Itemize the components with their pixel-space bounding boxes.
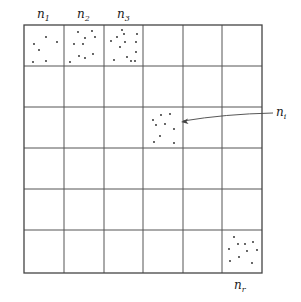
point-dot xyxy=(94,36,96,38)
point-dot xyxy=(78,55,80,57)
point-dot xyxy=(124,41,126,43)
dot-clusters xyxy=(32,29,258,264)
point-dot xyxy=(91,30,93,32)
point-dot xyxy=(45,60,47,62)
point-dot xyxy=(136,33,138,35)
point-dot xyxy=(233,236,235,238)
cell-ni xyxy=(152,113,175,144)
point-dot xyxy=(244,243,246,245)
point-dot xyxy=(152,119,154,121)
point-dot xyxy=(84,57,86,59)
point-dot xyxy=(84,37,86,39)
point-dot xyxy=(110,40,112,42)
label-nr: nr xyxy=(234,278,247,294)
label-n1: n1 xyxy=(37,7,50,23)
point-dot xyxy=(32,61,34,63)
label-n2: n2 xyxy=(77,7,90,23)
cell-n1 xyxy=(32,36,58,63)
grid-lines xyxy=(24,25,262,273)
cell-n3 xyxy=(110,29,138,62)
point-dot xyxy=(229,260,231,262)
point-dot xyxy=(256,249,258,251)
arrowhead-icon xyxy=(181,119,189,125)
point-dot xyxy=(155,124,157,126)
point-dot xyxy=(121,29,123,31)
arrow-to-cell-ni xyxy=(183,113,273,121)
point-dot xyxy=(69,61,71,63)
point-dot xyxy=(173,142,175,144)
point-dot xyxy=(130,60,132,62)
point-dot xyxy=(238,256,240,258)
point-dot xyxy=(135,41,137,43)
point-dot xyxy=(228,248,230,250)
point-dot xyxy=(160,114,162,116)
label-n3: n3 xyxy=(117,7,130,23)
point-dot xyxy=(33,43,35,45)
point-dot xyxy=(159,135,161,137)
point-dot xyxy=(119,46,121,48)
point-dot xyxy=(169,113,171,115)
point-dot xyxy=(173,128,175,130)
point-dot xyxy=(237,243,239,245)
point-dot xyxy=(126,56,128,58)
point-dot xyxy=(82,43,84,45)
point-dot xyxy=(246,250,248,252)
point-dot xyxy=(113,59,115,61)
point-dot xyxy=(153,141,155,143)
point-dot xyxy=(45,36,47,38)
point-dot xyxy=(134,60,136,62)
point-dot xyxy=(92,53,94,55)
point-dot xyxy=(56,41,58,43)
cell-n2 xyxy=(69,30,96,63)
point-dot xyxy=(164,123,166,125)
point-dot xyxy=(38,49,40,51)
point-dot xyxy=(252,241,254,243)
point-dot xyxy=(116,36,118,38)
point-dot xyxy=(135,51,137,53)
label-ni: ni xyxy=(276,105,287,121)
point-dot xyxy=(77,31,79,33)
point-dot xyxy=(251,262,253,264)
point-dot xyxy=(73,43,75,45)
grid-diagram: n1 n2 n3 ni nr xyxy=(0,0,301,302)
cell-nr xyxy=(228,236,258,264)
point-dot xyxy=(123,33,125,35)
